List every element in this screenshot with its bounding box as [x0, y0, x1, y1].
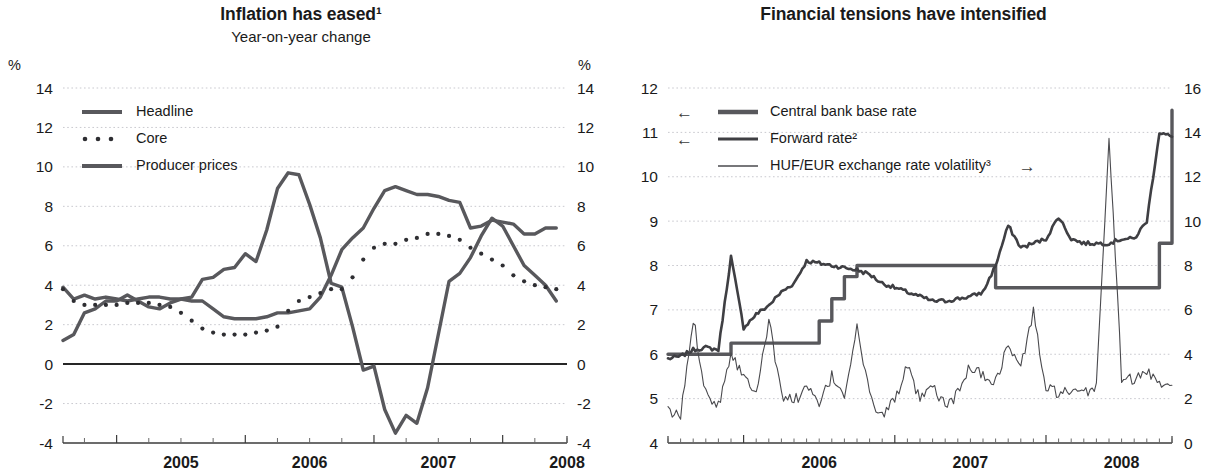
x-tick-label: 2006: [292, 454, 328, 471]
legend-swatch-dot: [96, 137, 101, 142]
core-dot: [458, 238, 462, 242]
legend-right-arrow-icon: →: [1019, 157, 1036, 176]
y-tick-label: 9: [649, 213, 658, 230]
right-chart-legend: ←Central bank base rate←Forward rate²HUF…: [676, 103, 1036, 176]
core-dot: [329, 287, 333, 291]
core-dot: [286, 309, 290, 313]
y2-tick-label: -4: [577, 435, 591, 452]
y2-tick-label: 0: [1184, 435, 1193, 452]
core-dot: [340, 287, 344, 291]
core-dot: [297, 299, 301, 303]
core-dot: [254, 330, 258, 334]
series-core: [61, 232, 558, 337]
core-dot: [93, 303, 97, 307]
x-tick-label: 2005: [163, 454, 199, 471]
core-dot: [157, 303, 161, 307]
core-dot: [275, 325, 279, 329]
y-tick-label: 2: [44, 316, 53, 333]
left-chart-svg: -4-4-2-200224466881010121214142005200620…: [0, 0, 602, 473]
core-dot: [404, 238, 408, 242]
core-dot: [222, 332, 226, 336]
core-dot: [61, 287, 65, 291]
y-tick-label: 10: [36, 158, 54, 175]
legend-label: HUF/EUR exchange rate volatility³: [770, 157, 991, 173]
figure-page: Inflation has eased¹ Year-on-year change…: [0, 0, 1205, 473]
core-dot: [501, 263, 505, 267]
core-dot: [383, 242, 387, 246]
legend-label: Forward rate²: [770, 130, 857, 146]
legend-label: Producer prices: [136, 157, 238, 173]
y-tick-label: -2: [39, 395, 53, 412]
core-dot: [179, 311, 183, 315]
y-tick-label: 0: [44, 356, 53, 373]
x-tick-label: 2007: [953, 454, 989, 471]
core-dot: [522, 279, 526, 283]
right-chart-svg: 4567891011120246810121416200620072008←Ce…: [602, 0, 1205, 473]
core-dot: [511, 273, 515, 277]
legend-label: Central bank base rate: [770, 103, 917, 119]
x-tick-label: 2008: [1104, 454, 1140, 471]
core-dot: [168, 305, 172, 309]
legend-label: Headline: [136, 103, 193, 119]
core-dot: [243, 332, 247, 336]
core-dot: [125, 301, 129, 305]
core-dot: [436, 232, 440, 236]
core-dot: [350, 275, 354, 279]
core-dot: [372, 246, 376, 250]
y2-tick-label: 10: [1184, 213, 1202, 230]
y2-tick-label: 2: [1184, 390, 1193, 407]
core-dot: [543, 285, 547, 289]
y2-tick-label: 14: [1184, 124, 1202, 141]
y2-tick-label: 6: [1184, 301, 1193, 318]
y-tick-label: 8: [44, 198, 53, 215]
y2-tick-label: 2: [577, 316, 586, 333]
core-dot: [447, 234, 451, 238]
core-dot: [82, 303, 86, 307]
legend-swatch-dot: [109, 137, 114, 142]
core-dot: [468, 246, 472, 250]
y-tick-label: 14: [36, 80, 54, 97]
core-dot: [265, 328, 269, 332]
core-dot: [232, 332, 236, 336]
legend-left-arrow-icon: ←: [676, 103, 693, 122]
core-dot: [211, 330, 215, 334]
core-dot: [308, 295, 312, 299]
core-dot: [200, 327, 204, 331]
legend-label: Core: [136, 130, 167, 146]
y-tick-label: 8: [649, 257, 658, 274]
core-dot: [533, 283, 537, 287]
right-chart-panel: Financial tensions have intensified % % …: [602, 0, 1205, 473]
y-tick-label: 4: [44, 277, 53, 294]
core-dot: [415, 236, 419, 240]
y-tick-label: 12: [36, 119, 53, 136]
legend-swatch-dot: [83, 137, 88, 142]
y2-tick-label: 12: [577, 119, 594, 136]
x-tick-label: 2007: [421, 454, 457, 471]
core-dot: [104, 303, 108, 307]
y-tick-label: 7: [649, 301, 658, 318]
series-huf-eur-volatility: [668, 138, 1172, 419]
core-dot: [190, 319, 194, 323]
y-tick-label: 4: [649, 435, 658, 452]
core-dot: [147, 301, 151, 305]
y-tick-label: 6: [649, 346, 658, 363]
y2-tick-label: 10: [577, 158, 595, 175]
y-tick-label: -4: [39, 435, 53, 452]
y2-tick-label: 16: [1184, 80, 1201, 97]
left-chart-panel: Inflation has eased¹ Year-on-year change…: [0, 0, 602, 473]
core-dot: [554, 287, 558, 291]
y-tick-label: 5: [649, 390, 658, 407]
core-dot: [72, 299, 76, 303]
core-dot: [136, 301, 140, 305]
y2-tick-label: 8: [577, 198, 586, 215]
y2-tick-label: 4: [1184, 346, 1193, 363]
core-dot: [361, 257, 365, 261]
y-tick-label: 10: [641, 168, 659, 185]
y2-tick-label: 12: [1184, 168, 1201, 185]
y-tick-label: 12: [641, 80, 658, 97]
y2-tick-label: 14: [577, 80, 595, 97]
y2-tick-label: -2: [577, 395, 591, 412]
left-chart-legend: HeadlineCoreProducer prices: [82, 103, 238, 173]
core-dot: [318, 291, 322, 295]
legend-left-arrow-icon: ←: [676, 130, 693, 149]
